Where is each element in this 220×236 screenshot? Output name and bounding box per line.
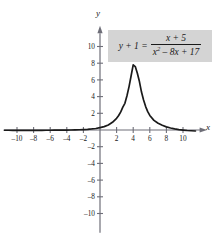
- y-tick-label: –4: [87, 159, 96, 168]
- x-tick-label: –10: [11, 134, 23, 143]
- fraction-numerator: x + 5: [162, 34, 190, 44]
- x-tick-label: –2: [79, 134, 88, 143]
- y-tick-label: –2: [87, 142, 96, 151]
- y-tick-label: 8: [91, 59, 95, 68]
- equation-box: y + 1 = x + 5 x2 – 8x + 17: [108, 30, 212, 62]
- x-tick-label: 4: [131, 134, 135, 143]
- equation-fraction: x + 5 x2 – 8x + 17: [151, 34, 202, 58]
- equation-left-side: y + 1 =: [119, 41, 148, 51]
- x-tick-label: 6: [148, 134, 152, 143]
- x-axis-label: x: [206, 122, 210, 132]
- denominator-exponent: 2: [157, 45, 160, 52]
- x-tick-label: 8: [165, 134, 169, 143]
- x-tick-label: –4: [62, 134, 71, 143]
- y-tick-label: 6: [91, 76, 95, 85]
- y-tick-label: 4: [91, 92, 95, 101]
- denominator-rest: – 8x + 17: [163, 47, 200, 57]
- figure-container: –10–8–6–4–2246810–10–8–6–4–2246810 y + 1…: [0, 0, 220, 236]
- y-tick-label: 2: [91, 109, 95, 118]
- y-tick-label: –10: [83, 209, 95, 218]
- x-tick-label: –6: [46, 134, 55, 143]
- x-tick-label: 2: [115, 134, 119, 143]
- y-tick-label: 10: [88, 42, 96, 51]
- y-axis-label: y: [96, 8, 100, 18]
- x-tick-label: 10: [179, 134, 187, 143]
- x-tick-label: –8: [29, 134, 38, 143]
- y-tick-label: –8: [87, 192, 96, 201]
- fraction-denominator: x2 – 8x + 17: [151, 44, 202, 58]
- y-tick-label: –6: [87, 176, 96, 185]
